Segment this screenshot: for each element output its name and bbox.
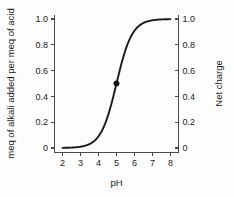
x-tick-label: 4: [96, 158, 101, 168]
right-tick-label: 0.4: [183, 92, 196, 102]
x-tick-label: 2: [60, 158, 65, 168]
right-tick-label: 0: [183, 143, 188, 153]
y-axis-title: meq of alkali added per meq of acid: [5, 8, 16, 159]
titration-curve-figure: 00.20.40.60.81.0 00.20.40.60.81.0 234567…: [0, 0, 234, 197]
left-tick-label: 0.4: [35, 92, 48, 102]
right-tick-label: 0.2: [183, 117, 196, 127]
right-tick-label: 0.8: [183, 40, 196, 50]
chart-canvas: 00.20.40.60.81.0 00.20.40.60.81.0 234567…: [0, 0, 234, 197]
x-tick-label: 5: [114, 158, 119, 168]
x-tick-label: 8: [168, 158, 173, 168]
x-tick-label: 6: [132, 158, 137, 168]
left-tick-label: 0.8: [35, 40, 48, 50]
x-axis-tick-labels: 2345678: [60, 158, 173, 168]
x-tick-label: 7: [150, 158, 155, 168]
pka-midpoint-marker: [114, 81, 119, 86]
x-tick-label: 3: [78, 158, 83, 168]
left-tick-label: 0: [43, 143, 48, 153]
right-tick-label: 0.6: [183, 66, 196, 76]
x-axis-title: pH: [110, 177, 122, 188]
right-tick-label: 1.0: [183, 14, 196, 24]
left-tick-label: 1.0: [35, 14, 48, 24]
secondary-y-axis-title: Net charge: [213, 60, 224, 106]
left-axis-tick-labels: 00.20.40.60.81.0: [35, 14, 48, 153]
left-tick-label: 0.2: [35, 117, 48, 127]
right-axis-tick-labels: 00.20.40.60.81.0: [183, 14, 196, 153]
data-point-markers: [114, 81, 119, 86]
left-tick-label: 0.6: [35, 66, 48, 76]
